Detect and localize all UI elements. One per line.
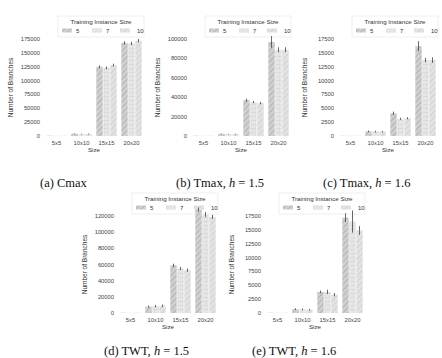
y-tick-label: 125000: [21, 64, 40, 70]
bar-15x15-7: [397, 119, 403, 136]
y-tick-label: 10000: [245, 255, 261, 261]
y-axis-label: Number of Branches: [228, 234, 235, 294]
x-axis-label: Size: [309, 323, 322, 330]
y-tick-label: 5000: [248, 282, 261, 288]
bar-20x20-7: [202, 214, 208, 313]
x-tick-label: 20x20: [418, 140, 434, 146]
caption-d: (d) TWT, h = 1.5: [104, 344, 189, 358]
legend-entry-10: 10: [211, 205, 218, 211]
y-axis-label: Number of Branches: [301, 57, 308, 117]
bar-chart-d: Training Instance Size571002000040000600…: [74, 185, 222, 350]
y-tick-label: 60000: [171, 75, 187, 81]
x-tick-label: 20x20: [124, 140, 140, 146]
y-tick-label: 25000: [24, 119, 40, 125]
y-tick-label: 0: [111, 310, 114, 316]
bar-20x20-5: [342, 218, 348, 313]
legend-title: Training Instance Size: [292, 195, 354, 202]
bar-15x15-10: [110, 65, 116, 136]
y-tick-label: 7500: [248, 268, 261, 274]
bar-15x15-10: [184, 270, 190, 313]
y-tick-label: 2500: [321, 119, 334, 125]
bar-15x15-5: [243, 100, 249, 136]
legend: Training Instance Size5710: [352, 16, 438, 37]
y-tick-label: 12500: [245, 241, 261, 247]
x-tick-label: 15x15: [246, 140, 262, 146]
y-tick-label: 7500: [321, 91, 334, 97]
bar-15x15-10: [404, 118, 410, 136]
y-tick-label: 100000: [168, 36, 187, 42]
bar-20x20-5: [268, 42, 274, 136]
y-tick-label: 50000: [24, 105, 40, 111]
y-tick-label: 15000: [318, 50, 334, 56]
x-axis-label: Size: [235, 146, 248, 153]
legend-entry-10: 10: [431, 28, 438, 34]
bar-20x20-10: [209, 217, 215, 313]
bar-15x15-5: [317, 292, 323, 313]
y-axis-label: Number of Branches: [7, 57, 14, 117]
bar-chart-b: Training Instance Size571002000040000600…: [147, 8, 295, 173]
legend-entry-10: 10: [358, 205, 365, 211]
bar-20x20-5: [195, 210, 201, 313]
y-tick-label: 80000: [171, 55, 187, 61]
bar-chart-c: Training Instance Size571002500500075001…: [294, 8, 442, 173]
bar-chart-e: Training Instance Size571002500500075001…: [221, 185, 369, 350]
y-tick-label: 150000: [21, 50, 40, 56]
y-tick-label: 60000: [98, 262, 114, 268]
bar-20x20-7: [275, 50, 281, 136]
bar-20x20-7: [422, 60, 428, 136]
x-tick-label: 5x5: [52, 140, 61, 146]
bar-20x20-10: [135, 41, 141, 136]
y-tick-label: 175000: [21, 36, 40, 42]
bar-20x20-7: [128, 43, 134, 136]
bar-15x15-5: [390, 113, 396, 136]
chart-panel-d: Training Instance Size571002000040000600…: [74, 185, 222, 350]
bar-20x20-10: [356, 230, 362, 313]
bar-15x15-10: [331, 295, 337, 313]
y-tick-label: 12500: [318, 64, 334, 70]
legend-title: Training Instance Size: [218, 18, 280, 25]
bar-15x15-10: [257, 103, 263, 136]
legend-title: Training Instance Size: [145, 195, 207, 202]
bar-15x15-7: [177, 269, 183, 313]
x-tick-label: 20x20: [345, 317, 361, 323]
bar-20x20-10: [282, 50, 288, 136]
chart-panel-a: Training Instance Size571002500050000750…: [0, 8, 148, 173]
legend-title: Training Instance Size: [365, 18, 427, 25]
y-tick-label: 17500: [245, 213, 261, 219]
y-tick-label: 100000: [95, 229, 114, 235]
y-tick-label: 100000: [21, 78, 40, 84]
x-tick-label: 15x15: [99, 140, 115, 146]
bar-20x20-5: [121, 43, 127, 136]
y-tick-label: 40000: [171, 94, 187, 100]
bar-15x15-5: [96, 67, 102, 136]
legend-entry-10: 10: [284, 28, 291, 34]
bar-15x15-7: [324, 292, 330, 313]
x-tick-label: 20x20: [198, 317, 214, 323]
bar-20x20-10: [429, 60, 435, 136]
y-axis-label: Number of Branches: [81, 234, 88, 294]
x-tick-label: 20x20: [271, 140, 287, 146]
caption-e: (e) TWT, h = 1.6: [252, 344, 336, 358]
bar-15x15-5: [170, 265, 176, 313]
y-tick-label: 0: [37, 133, 40, 139]
chart-panel-c: Training Instance Size571002500500075001…: [294, 8, 442, 173]
y-tick-label: 20000: [171, 114, 187, 120]
legend-entry-10: 10: [137, 28, 144, 34]
y-tick-label: 15000: [245, 227, 261, 233]
x-tick-label: 15x15: [173, 317, 189, 323]
x-tick-label: 5x5: [199, 140, 208, 146]
bar-chart-a: Training Instance Size571002500050000750…: [0, 8, 148, 173]
y-tick-label: 80000: [98, 245, 114, 251]
chart-panel-e: Training Instance Size571002500500075001…: [221, 185, 369, 350]
y-tick-label: 2500: [248, 296, 261, 302]
bar-15x15-7: [250, 102, 256, 136]
x-axis-label: Size: [162, 323, 175, 330]
bar-20x20-7: [349, 222, 355, 313]
x-tick-label: 15x15: [320, 317, 336, 323]
y-tick-label: 40000: [98, 278, 114, 284]
x-tick-label: 15x15: [393, 140, 409, 146]
x-tick-label: 5x5: [346, 140, 355, 146]
y-tick-label: 0: [184, 133, 187, 139]
y-tick-label: 20000: [98, 294, 114, 300]
legend-title: Training Instance Size: [71, 18, 133, 25]
